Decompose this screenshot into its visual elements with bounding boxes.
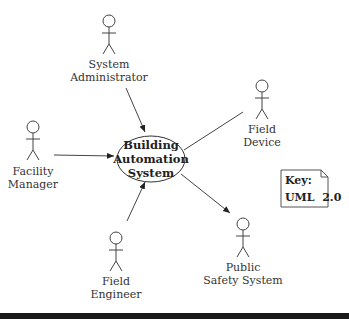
actor-label-line-2: Administrator (69, 71, 148, 84)
association-facility-manager (54, 155, 114, 156)
use-case-building-automation-system: Building Automation System (112, 136, 189, 182)
use-case-label-line-3: System (128, 166, 174, 180)
association-field-engineer (127, 182, 145, 221)
actor-label-line-2: Device (243, 136, 281, 149)
actor-label-line-1: Facility (13, 165, 55, 178)
key-title: Key: (285, 174, 312, 187)
stick-figure-icon (236, 218, 250, 257)
association-field-device (184, 112, 243, 150)
use-case-diagram: Building Automation System System Admini… (0, 0, 349, 319)
actor-public-safety-system: Public Safety System (203, 218, 283, 287)
actor-label-line-2: Engineer (90, 288, 142, 301)
actor-field-device: Field Device (243, 80, 281, 149)
actor-field-engineer: Field Engineer (90, 232, 142, 301)
stick-figure-icon (26, 121, 40, 160)
actor-label-line-1: Public (226, 261, 261, 274)
actor-label-line-1: Field (102, 275, 130, 288)
bottom-rule (0, 313, 349, 319)
actor-label-line-1: System (89, 58, 130, 71)
association-public-safety-system (181, 174, 230, 213)
stick-figure-icon (102, 15, 116, 54)
key-value: UML 2.0 (285, 191, 342, 204)
actor-label-line-2: Safety System (203, 274, 283, 287)
actor-system-administrator: System Administrator (69, 15, 148, 84)
stick-figure-icon (255, 80, 269, 119)
actor-label-line-1: Field (248, 123, 276, 136)
stick-figure-icon (109, 232, 123, 271)
actor-facility-manager: Facility Manager (8, 121, 59, 191)
key-note: Key: UML 2.0 (281, 170, 342, 207)
association-system-administrator (126, 88, 145, 132)
use-case-label-line-1: Building (123, 138, 179, 152)
use-case-label-line-2: Automation (112, 152, 189, 166)
actor-label-line-2: Manager (8, 178, 59, 191)
